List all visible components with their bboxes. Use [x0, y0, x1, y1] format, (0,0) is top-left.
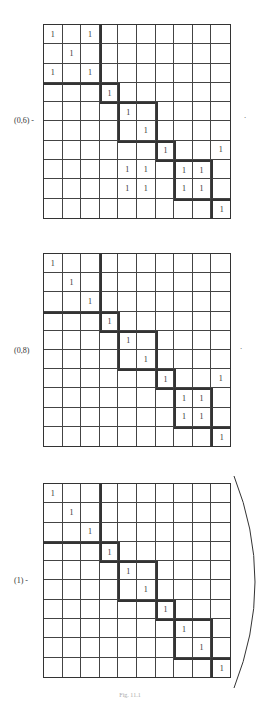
matrix-grid: 1111111111 [43, 483, 231, 678]
matrix-cell: 1 [81, 292, 100, 311]
matrix-cell [100, 658, 119, 677]
matrix-cell [44, 388, 63, 407]
matrix-cell: 1 [193, 179, 212, 198]
matrix-cell [156, 580, 175, 599]
matrix-cell [174, 600, 193, 619]
matrix-cell [156, 254, 175, 273]
matrix-cell [81, 427, 100, 446]
matrix-cell: 1 [211, 141, 230, 160]
matrix-cell [100, 121, 119, 140]
matrix-cell [118, 121, 137, 140]
matrix-cell [174, 484, 193, 503]
matrix-cell: 1 [100, 83, 119, 102]
matrix-cell [174, 350, 193, 369]
matrix-cell [44, 141, 63, 160]
matrix-cell [193, 121, 212, 140]
matrix-cell [156, 638, 175, 657]
matrix-cell [193, 64, 212, 83]
matrix-cell: 1 [63, 273, 82, 292]
matrix-cell [63, 427, 82, 446]
matrix-cell [137, 542, 156, 561]
matrix-cell: 1 [118, 331, 137, 350]
matrix-cell [174, 638, 193, 657]
matrix-cell [156, 273, 175, 292]
matrix-cell [100, 350, 119, 369]
matrix-cell [63, 83, 82, 102]
matrix-label: (0,6) - [14, 116, 34, 125]
matrix-cell [193, 619, 212, 638]
matrix-cell [44, 369, 63, 388]
matrix-cell [100, 331, 119, 350]
matrix-cell [44, 600, 63, 619]
matrix-cell [156, 388, 175, 407]
matrix-grid: 1111111111111 [43, 253, 231, 447]
matrix-cell [137, 427, 156, 446]
matrix-cell [211, 25, 230, 44]
matrix-cell [118, 350, 137, 369]
matrix-cell [193, 427, 212, 446]
matrix-cell [174, 542, 193, 561]
matrix-cell [137, 64, 156, 83]
matrix-cell [211, 44, 230, 63]
matrix-cell [193, 312, 212, 331]
matrix-cell [100, 484, 119, 503]
matrix-cell [193, 484, 212, 503]
matrix-cell [118, 312, 137, 331]
matrix-cell [137, 44, 156, 63]
matrix-cell [118, 292, 137, 311]
matrix-cell [118, 83, 137, 102]
matrix-cell [193, 369, 212, 388]
matrix-cell [63, 369, 82, 388]
matrix-cell [118, 503, 137, 522]
matrix-cell: 1 [193, 408, 212, 427]
matrix-cell [81, 254, 100, 273]
matrix-cell [100, 600, 119, 619]
matrix-cell [100, 199, 119, 218]
matrix-cell [81, 160, 100, 179]
matrix-cell: 1 [156, 369, 175, 388]
matrix-cell [118, 638, 137, 657]
matrix-cell [63, 331, 82, 350]
matrix-cell [100, 523, 119, 542]
matrix-cell [81, 199, 100, 218]
matrix-cell [156, 102, 175, 121]
matrix-cell [118, 141, 137, 160]
matrix-cell [193, 542, 212, 561]
matrix-cell [174, 254, 193, 273]
matrix-cell: 1 [137, 580, 156, 599]
matrix-cell [137, 523, 156, 542]
matrix-cell [81, 141, 100, 160]
matrix-cell [156, 427, 175, 446]
matrix-cell [137, 503, 156, 522]
matrix-cell: 1 [174, 160, 193, 179]
matrix-cell [44, 350, 63, 369]
matrix-cell [100, 254, 119, 273]
matrix-cell [81, 388, 100, 407]
matrix-cell [137, 658, 156, 677]
matrix-cell [156, 121, 175, 140]
matrix-cell [81, 484, 100, 503]
matrix-cell [44, 619, 63, 638]
matrix-cell [137, 484, 156, 503]
matrix-cell [156, 484, 175, 503]
matrix-cell [63, 580, 82, 599]
matrix-cell [193, 199, 212, 218]
matrix-cell [156, 25, 175, 44]
matrix-cell [63, 638, 82, 657]
matrix-cell [193, 44, 212, 63]
matrix-cell [174, 427, 193, 446]
matrix-cell [100, 64, 119, 83]
matrix-cell [211, 179, 230, 198]
matrix-cell [193, 600, 212, 619]
matrix-cell [63, 64, 82, 83]
matrix-cell [63, 292, 82, 311]
matrix-cell [118, 254, 137, 273]
matrix-cell [211, 292, 230, 311]
matrix-cell [174, 658, 193, 677]
matrix-cell [193, 350, 212, 369]
matrix-cell [211, 388, 230, 407]
matrix-cell [156, 312, 175, 331]
matrix-cell [174, 561, 193, 580]
matrix-cell: 1 [156, 141, 175, 160]
matrix-cell [174, 64, 193, 83]
